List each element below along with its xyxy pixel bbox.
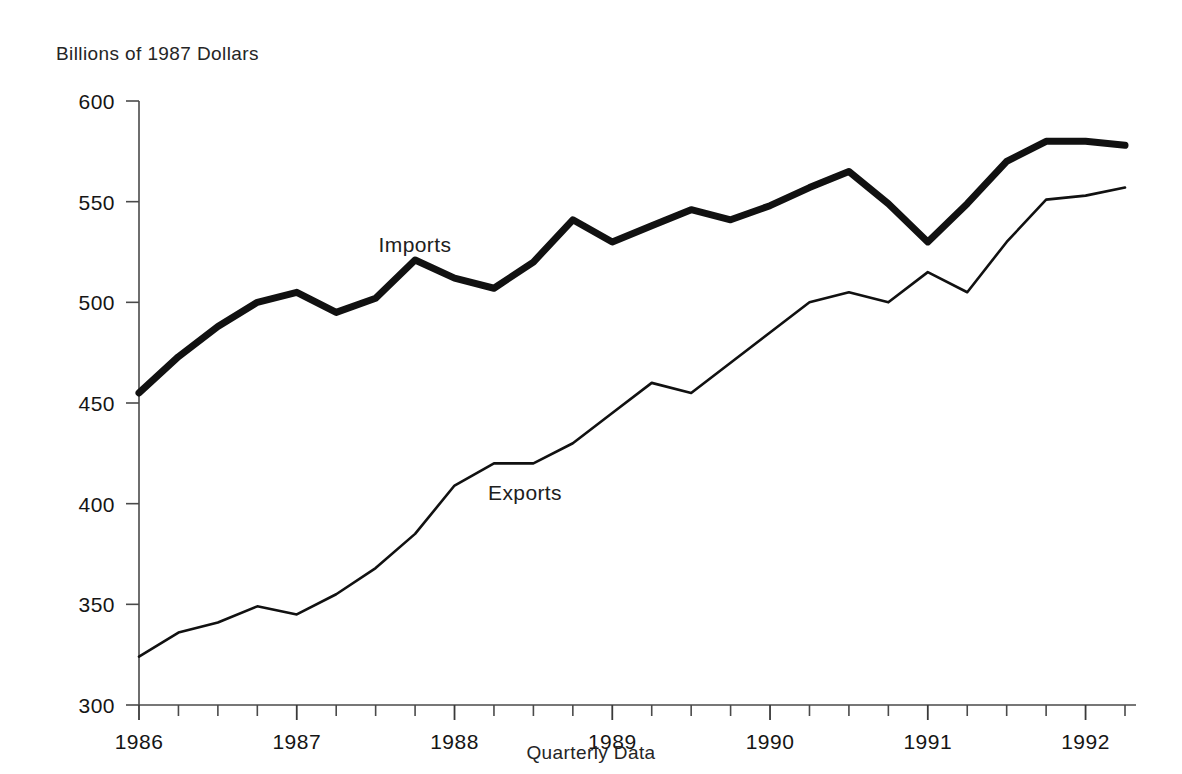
- y-tick-label: 500: [78, 291, 115, 314]
- series-lines: [139, 141, 1125, 656]
- y-tick-label: 300: [78, 694, 115, 717]
- series-label-imports: Imports: [379, 233, 452, 256]
- series-label-exports: Exports: [488, 481, 562, 504]
- series-line-imports: [139, 141, 1125, 393]
- y-tick-label: 450: [78, 392, 115, 415]
- y-tick-label: 600: [78, 90, 115, 113]
- series-line-exports: [139, 188, 1125, 657]
- y-tick-label: 400: [78, 493, 115, 516]
- chart-container: Billions of 1987 Dollars 300350400450500…: [0, 0, 1182, 774]
- y-tick-label: 350: [78, 593, 115, 616]
- line-chart-svg: 300350400450500550600 198619871988198919…: [0, 0, 1182, 774]
- y-axis: 300350400450500550600: [78, 90, 139, 717]
- x-axis-title: Quarterly Data: [0, 742, 1182, 764]
- y-tick-label: 550: [78, 191, 115, 214]
